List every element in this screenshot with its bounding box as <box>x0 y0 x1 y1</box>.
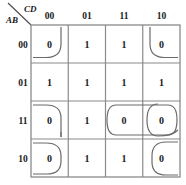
cell-r0-c0: 0 <box>47 39 52 50</box>
cell-r2-c0: 0 <box>47 115 52 126</box>
cell-r0-c3: 0 <box>159 39 164 50</box>
row-header-0: 00 <box>18 40 28 50</box>
cell-r3-c2: 1 <box>122 153 127 164</box>
cell-r2-c3: 0 <box>159 115 164 126</box>
cell-r2-c2: 0 <box>122 115 127 126</box>
cd-axis-label: CD <box>24 4 37 14</box>
row-header-1: 01 <box>18 78 28 88</box>
cell-r2-c1: 1 <box>84 115 89 126</box>
row-header-3: 10 <box>18 154 28 164</box>
cell-r0-c1: 1 <box>84 39 89 50</box>
loop-top-right-corner <box>150 27 178 58</box>
ab-axis-label: AB <box>5 15 18 25</box>
kmap-canvas: CD AB 00 01 11 10 00 01 11 10 0 1 1 0 1 … <box>0 0 186 185</box>
cell-r3-c3: 0 <box>159 153 164 164</box>
column-header-3: 10 <box>157 11 167 21</box>
loop-row11-pair <box>107 105 177 135</box>
column-header-0: 00 <box>45 11 55 21</box>
cell-r1-c0: 1 <box>47 77 52 88</box>
cell-r1-c1: 1 <box>84 77 89 88</box>
karnaugh-map: CD AB 00 01 11 10 00 01 11 10 0 1 1 0 1 … <box>0 0 186 185</box>
cell-r0-c2: 1 <box>122 39 127 50</box>
column-header-2: 11 <box>120 11 129 21</box>
row-header-2: 11 <box>19 116 28 126</box>
cell-r3-c1: 1 <box>84 153 89 164</box>
cell-r1-c3: 1 <box>159 77 164 88</box>
cell-r1-c2: 1 <box>122 77 127 88</box>
loop-right-col-row10 <box>152 142 178 175</box>
cell-r3-c0: 0 <box>47 153 52 164</box>
column-header-1: 01 <box>82 11 92 21</box>
